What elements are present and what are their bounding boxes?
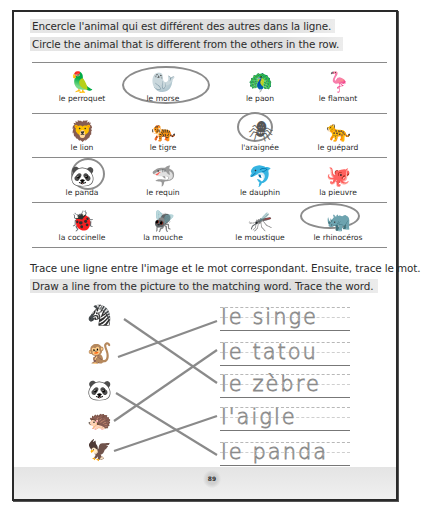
page-number: 89 bbox=[203, 470, 221, 488]
